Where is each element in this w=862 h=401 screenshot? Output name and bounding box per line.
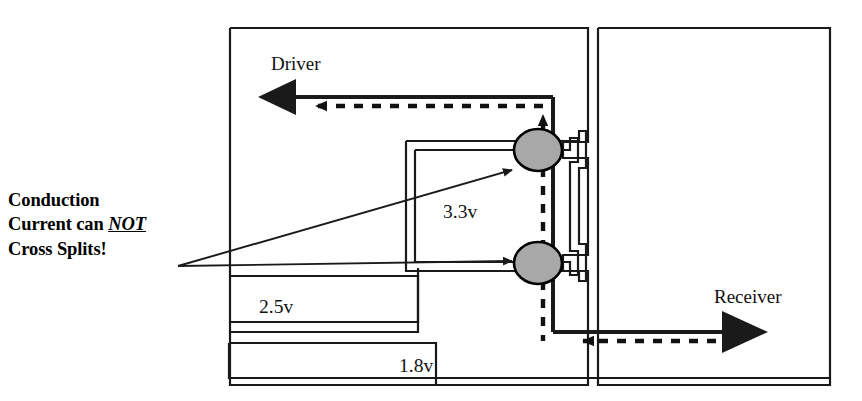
plane-label-2v5: 2.5v <box>259 296 293 317</box>
receiver-label: Receiver <box>714 286 782 307</box>
top-via[interactable] <box>514 129 562 171</box>
annotation-line-1: Conduction <box>8 188 183 212</box>
plane-outline-1v8-inner <box>229 343 830 378</box>
plane-outline-2v5-right <box>229 276 418 332</box>
annotation-line-2-text: Current can <box>8 214 108 234</box>
plane-outline-2v5 <box>229 276 418 322</box>
receiver-triangle-right-icon <box>722 311 768 353</box>
diagram-canvas: Driver Receiver 3.3v 2.5v 1.8v Conductio… <box>0 0 862 401</box>
plane-label-1v8: 1.8v <box>399 355 433 376</box>
bottom-via[interactable] <box>514 242 562 284</box>
plane-label-3v3: 3.3v <box>443 201 477 222</box>
annotation-emphasis-not: NOT <box>108 214 146 234</box>
driver-label: Driver <box>271 53 321 74</box>
annotation-line-2: Current can NOT <box>8 212 183 236</box>
conduction-current-annotation: Conduction Current can NOT Cross Splits! <box>8 188 183 261</box>
driver-triangle-left-icon <box>258 79 296 115</box>
annotation-line-3: Cross Splits! <box>8 237 183 261</box>
callout-arrow-to-bottom-via <box>178 261 512 266</box>
